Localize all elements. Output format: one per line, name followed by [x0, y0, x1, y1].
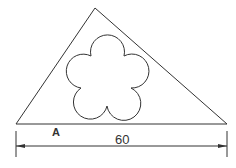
flower-shape: [66, 35, 149, 120]
dimension-label: 60: [115, 132, 129, 147]
triangle: [16, 8, 227, 124]
point-label-a: A: [52, 126, 60, 138]
arrowhead-left: [16, 144, 25, 148]
arrowhead-right: [218, 144, 227, 148]
